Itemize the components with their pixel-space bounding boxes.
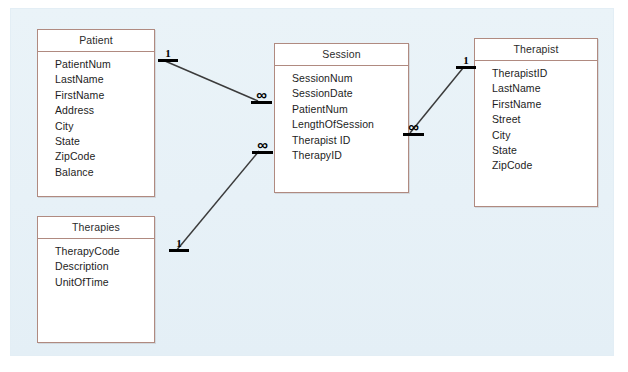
cardinality-therapist-one: 1	[455, 55, 477, 69]
field-therapist-zipcode[interactable]: ZipCode	[492, 158, 597, 173]
cardinality-glyph: ∞	[251, 137, 273, 151]
entity-session-fields: SessionNum SessionDate PatientNum Length…	[275, 66, 408, 163]
cardinality-glyph: ∞	[250, 87, 272, 101]
entity-patient-title: Patient	[38, 30, 154, 52]
field-session-sessionnum[interactable]: SessionNum	[292, 71, 408, 86]
cardinality-patient-one: 1	[157, 48, 179, 62]
field-session-lengthofsession[interactable]: LengthOfSession	[292, 117, 408, 132]
field-therapist-state[interactable]: State	[492, 143, 597, 158]
cardinality-session-many-therapies: ∞	[251, 140, 273, 154]
entity-session-title: Session	[275, 44, 408, 66]
cardinality-glyph: 1	[168, 238, 190, 249]
cardinality-glyph: ∞	[402, 119, 424, 133]
field-therapist-lastname[interactable]: LastName	[492, 81, 597, 96]
field-patient-zipcode[interactable]: ZipCode	[55, 149, 154, 164]
cardinality-session-many-therapist: ∞	[402, 122, 424, 136]
entity-therapist[interactable]: Therapist TherapistID LastName FirstName…	[474, 38, 598, 207]
cardinality-glyph: 1	[157, 48, 179, 59]
field-therapies-unitoftime[interactable]: UnitOfTime	[55, 275, 154, 290]
entity-therapies-fields: TherapyCode Description UnitOfTime	[38, 239, 154, 290]
field-patient-firstname[interactable]: FirstName	[55, 88, 154, 103]
field-therapist-therapistid[interactable]: TherapistID	[492, 66, 597, 81]
entity-therapies[interactable]: Therapies TherapyCode Description UnitOf…	[37, 216, 155, 343]
field-therapies-therapycode[interactable]: TherapyCode	[55, 244, 154, 259]
field-patient-lastname[interactable]: LastName	[55, 72, 154, 87]
field-session-therapyid[interactable]: TherapyID	[292, 148, 408, 163]
cardinality-session-many-patient: ∞	[250, 90, 272, 104]
entity-session[interactable]: Session SessionNum SessionDate PatientNu…	[274, 43, 409, 193]
entity-therapies-title: Therapies	[38, 217, 154, 239]
field-patient-state[interactable]: State	[55, 134, 154, 149]
cardinality-bar	[169, 249, 189, 252]
field-therapist-city[interactable]: City	[492, 128, 597, 143]
field-session-therapistid[interactable]: Therapist ID	[292, 133, 408, 148]
screenshot-root: Patient PatientNum LastName FirstName Ad…	[0, 0, 628, 372]
field-patient-address[interactable]: Address	[55, 103, 154, 118]
cardinality-therapies-one: 1	[168, 238, 190, 252]
entity-patient-fields: PatientNum LastName FirstName Address Ci…	[38, 52, 154, 180]
relationships-canvas[interactable]: Patient PatientNum LastName FirstName Ad…	[10, 8, 614, 356]
field-session-sessiondate[interactable]: SessionDate	[292, 86, 408, 101]
relationship-line-therapies-session	[176, 151, 259, 251]
field-therapies-description[interactable]: Description	[55, 259, 154, 274]
cardinality-bar	[456, 66, 476, 69]
entity-therapist-title: Therapist	[475, 39, 597, 61]
cardinality-glyph: 1	[455, 55, 477, 66]
field-session-patientnum[interactable]: PatientNum	[292, 102, 408, 117]
field-patient-patientnum[interactable]: PatientNum	[55, 57, 154, 72]
field-patient-balance[interactable]: Balance	[55, 165, 154, 180]
field-therapist-street[interactable]: Street	[492, 112, 597, 127]
entity-therapist-fields: TherapistID LastName FirstName Street Ci…	[475, 61, 597, 174]
field-patient-city[interactable]: City	[55, 119, 154, 134]
entity-patient[interactable]: Patient PatientNum LastName FirstName Ad…	[37, 29, 155, 197]
relationship-line-patient-session	[165, 61, 258, 101]
cardinality-bar	[158, 59, 178, 62]
field-therapist-firstname[interactable]: FirstName	[492, 97, 597, 112]
